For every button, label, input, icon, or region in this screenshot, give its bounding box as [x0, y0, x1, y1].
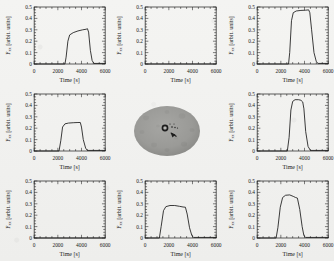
panel-cell-bottom-right: 0200040006000Time [s]00.10.20.30.40.5Fxx…: [223, 174, 334, 261]
svg-text:6000: 6000: [322, 155, 333, 161]
svg-text:0.2: 0.2: [248, 38, 255, 44]
panel-cell-middle-left: 0200040006000Time [s]00.10.20.30.40.5Fxx…: [0, 87, 111, 174]
svg-text:0: 0: [29, 235, 32, 241]
svg-text:Fxx [arbit. units]: Fxx [arbit. units]: [227, 190, 235, 229]
svg-text:0.2: 0.2: [25, 212, 32, 218]
svg-text:Fxx [arbit. units]: Fxx [arbit. units]: [5, 16, 13, 55]
svg-text:0.2: 0.2: [137, 38, 144, 44]
svg-text:Time [s]: Time [s]: [171, 251, 191, 258]
plot-bottom-center: 0200040006000Time [s]00.10.20.30.40.5Fxx…: [111, 174, 222, 261]
svg-text:6000: 6000: [100, 68, 111, 74]
svg-text:0.5: 0.5: [248, 178, 255, 184]
svg-text:0.4: 0.4: [137, 189, 144, 195]
svg-text:0.3: 0.3: [25, 114, 32, 120]
svg-text:0.5: 0.5: [248, 4, 255, 10]
figure-panel-grid: 0200040006000Time [s]00.10.20.30.40.5Fxx…: [0, 0, 334, 261]
svg-text:0.1: 0.1: [137, 50, 144, 56]
svg-text:0.5: 0.5: [25, 91, 32, 97]
svg-text:4000: 4000: [299, 155, 310, 161]
svg-text:0: 0: [144, 242, 147, 248]
svg-text:0.4: 0.4: [248, 15, 255, 21]
svg-text:0.1: 0.1: [248, 50, 255, 56]
svg-text:0: 0: [255, 68, 258, 74]
svg-text:4000: 4000: [76, 242, 87, 248]
plot-middle-right: 0200040006000Time [s]00.10.20.30.40.5Fxx…: [223, 87, 334, 174]
panel-cell-top-left: 0200040006000Time [s]00.10.20.30.40.5Fxx…: [0, 0, 111, 87]
svg-text:0.3: 0.3: [248, 114, 255, 120]
svg-text:0: 0: [255, 155, 258, 161]
svg-text:4000: 4000: [187, 242, 198, 248]
svg-text:0.1: 0.1: [248, 224, 255, 230]
svg-text:0.5: 0.5: [248, 91, 255, 97]
svg-text:0.4: 0.4: [25, 189, 32, 195]
svg-text:2000: 2000: [275, 242, 286, 248]
svg-text:Time [s]: Time [s]: [282, 77, 302, 84]
svg-text:4000: 4000: [299, 242, 310, 248]
svg-text:0: 0: [252, 61, 255, 67]
svg-text:0.4: 0.4: [248, 189, 255, 195]
plot-bottom-right: 0200040006000Time [s]00.10.20.30.40.5Fxx…: [223, 174, 334, 261]
svg-text:4000: 4000: [187, 68, 198, 74]
svg-text:6000: 6000: [100, 242, 111, 248]
plot-bottom-left: 0200040006000Time [s]00.10.20.30.40.5Fxx…: [0, 174, 111, 261]
svg-text:2000: 2000: [164, 242, 175, 248]
plot-top-center: 0200040006000Time [s]00.10.20.30.40.5Fxx…: [111, 0, 222, 87]
svg-text:Fxx [arbit. units]: Fxx [arbit. units]: [116, 16, 124, 55]
panel-cell-bottom-center: 0200040006000Time [s]00.10.20.30.40.5Fxx…: [111, 174, 222, 261]
panel-cell-middle-right: 0200040006000Time [s]00.10.20.30.40.5Fxx…: [223, 87, 334, 174]
svg-text:2000: 2000: [52, 155, 63, 161]
svg-text:0: 0: [252, 235, 255, 241]
svg-text:2000: 2000: [164, 68, 175, 74]
svg-text:0: 0: [255, 242, 258, 248]
panel-cell-bottom-left: 0200040006000Time [s]00.10.20.30.40.5Fxx…: [0, 174, 111, 261]
svg-text:0.1: 0.1: [25, 137, 32, 143]
svg-text:0.1: 0.1: [137, 224, 144, 230]
svg-text:Fxx [arbit. units]: Fxx [arbit. units]: [5, 190, 13, 229]
svg-text:Time [s]: Time [s]: [60, 164, 80, 171]
sample-photograph: [111, 87, 222, 174]
svg-text:0: 0: [33, 242, 36, 248]
svg-text:0.3: 0.3: [25, 201, 32, 207]
plot-top-left: 0200040006000Time [s]00.10.20.30.40.5Fxx…: [0, 0, 111, 87]
svg-text:0: 0: [29, 61, 32, 67]
svg-text:0.4: 0.4: [25, 102, 32, 108]
svg-text:Fxx [arbit. units]: Fxx [arbit. units]: [5, 103, 13, 142]
svg-text:0.4: 0.4: [25, 15, 32, 21]
svg-text:0: 0: [252, 148, 255, 154]
svg-text:0.4: 0.4: [137, 15, 144, 21]
svg-text:0: 0: [29, 148, 32, 154]
svg-text:Fxx [arbit. units]: Fxx [arbit. units]: [227, 16, 235, 55]
svg-text:0.3: 0.3: [248, 201, 255, 207]
svg-text:0.3: 0.3: [248, 27, 255, 33]
svg-text:0.1: 0.1: [25, 50, 32, 56]
plot-top-right: 0200040006000Time [s]00.10.20.30.40.5Fxx…: [223, 0, 334, 87]
svg-text:4000: 4000: [299, 68, 310, 74]
svg-text:2000: 2000: [52, 68, 63, 74]
svg-text:0.5: 0.5: [137, 178, 144, 184]
svg-text:Time [s]: Time [s]: [60, 77, 80, 84]
svg-text:0.3: 0.3: [137, 201, 144, 207]
svg-text:6000: 6000: [211, 242, 222, 248]
svg-text:0: 0: [144, 68, 147, 74]
panel-cell-top-center: 0200040006000Time [s]00.10.20.30.40.5Fxx…: [111, 0, 222, 87]
svg-text:0.4: 0.4: [248, 102, 255, 108]
svg-text:Fxx [arbit. units]: Fxx [arbit. units]: [227, 103, 235, 142]
svg-text:0.2: 0.2: [25, 125, 32, 131]
svg-text:Time [s]: Time [s]: [171, 77, 191, 84]
svg-text:6000: 6000: [322, 68, 333, 74]
svg-text:0.5: 0.5: [25, 4, 32, 10]
svg-text:Time [s]: Time [s]: [282, 251, 302, 258]
svg-text:0.2: 0.2: [248, 125, 255, 131]
svg-text:0.1: 0.1: [25, 224, 32, 230]
svg-text:0: 0: [141, 235, 144, 241]
svg-text:0.3: 0.3: [137, 27, 144, 33]
svg-text:0: 0: [33, 155, 36, 161]
svg-text:4000: 4000: [76, 155, 87, 161]
svg-text:0.2: 0.2: [25, 38, 32, 44]
svg-text:0.5: 0.5: [137, 4, 144, 10]
svg-text:6000: 6000: [100, 155, 111, 161]
svg-text:Time [s]: Time [s]: [282, 164, 302, 171]
svg-text:6000: 6000: [322, 242, 333, 248]
svg-text:0.5: 0.5: [25, 178, 32, 184]
svg-text:Fxx [arbit. units]: Fxx [arbit. units]: [116, 190, 124, 229]
